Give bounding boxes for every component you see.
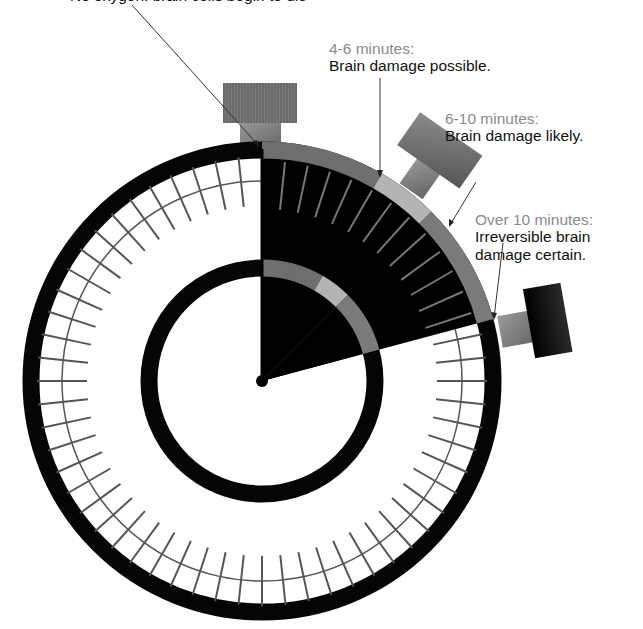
tick-mark [192, 167, 207, 215]
tick-mark [422, 452, 468, 472]
tick-mark [111, 511, 144, 548]
clipped-title-text: No oxygen: brain cells begin to die [70, 0, 307, 5]
tick-mark [333, 541, 353, 587]
callout-desc: Brain damage possible. [329, 57, 491, 74]
tick-mark [48, 311, 96, 326]
tick-mark [170, 541, 190, 587]
tick-mark [130, 199, 159, 239]
tick-mark [392, 498, 429, 531]
tick-mark [80, 249, 120, 278]
tick-mark [56, 452, 102, 472]
tick-mark [56, 289, 102, 309]
callout-over-10-minutes: Over 10 minutes: Irreversible brain dama… [475, 211, 635, 263]
tick-mark [130, 523, 159, 563]
tick-mark [192, 547, 207, 595]
tick-mark [170, 175, 190, 221]
tick-mark [350, 533, 375, 576]
stopwatch-graphic [0, 0, 643, 629]
leader-line-6-10 [450, 182, 476, 225]
tick-mark [42, 334, 91, 344]
callout-time: 6-10 minutes: [445, 110, 583, 127]
center-pivot [256, 375, 268, 387]
crown-button [223, 83, 297, 149]
tick-mark [365, 523, 394, 563]
callout-time: 4-6 minutes: [329, 40, 491, 57]
tick-mark [428, 435, 476, 450]
tick-mark [111, 214, 144, 251]
tick-mark [150, 533, 175, 576]
stopwatch-diagram: No oxygen: brain cells begin to die [0, 0, 643, 629]
callout-desc: Irreversible brain damage certain. [475, 228, 635, 263]
crown-cap [223, 83, 297, 123]
callout-6-10-minutes: 6-10 minutes: Brain damage likely. [445, 110, 583, 145]
tick-mark [67, 269, 110, 294]
callout-time: Over 10 minutes: [475, 211, 635, 228]
tick-mark [215, 161, 225, 210]
tick-mark [67, 469, 110, 494]
tick-mark [316, 547, 331, 595]
tick-mark [414, 469, 457, 494]
tick-mark [48, 435, 96, 450]
leader-line-0-4 [132, 5, 259, 146]
tick-mark [80, 484, 120, 513]
tick-mark [95, 230, 132, 263]
tick-mark [379, 511, 412, 548]
tick-mark [150, 186, 175, 229]
tick-mark [404, 484, 444, 513]
tick-mark [95, 498, 132, 531]
callout-4-6-minutes: 4-6 minutes: Brain damage possible. [329, 40, 491, 75]
side-button-right [493, 283, 572, 364]
callout-desc: Brain damage likely. [445, 127, 583, 144]
